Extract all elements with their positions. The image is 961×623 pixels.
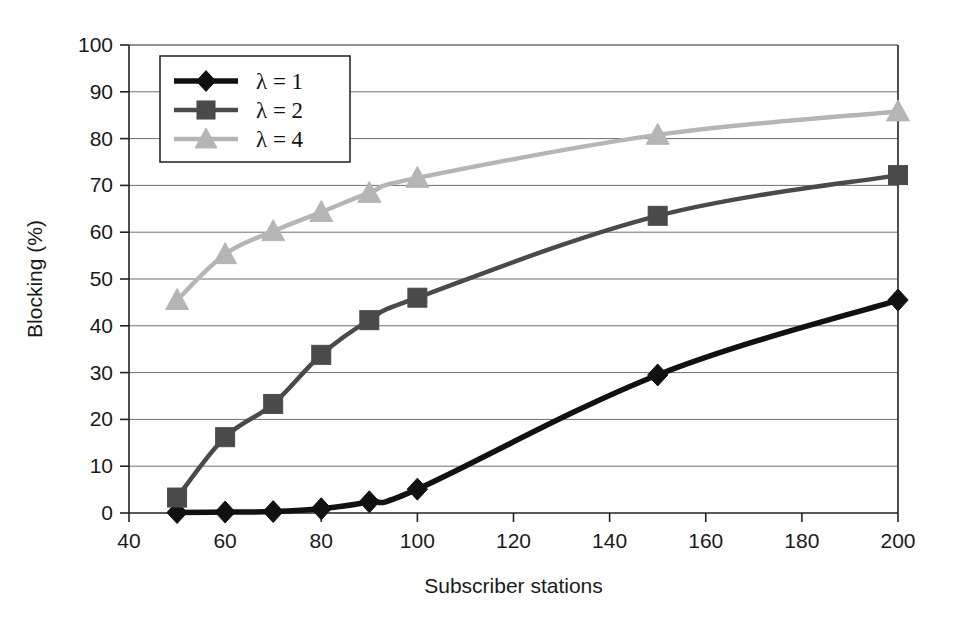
y-axis-title: Blocking (%) [23,220,46,338]
square-marker [168,488,187,507]
legend-label: λ = 2 [256,98,303,123]
y-tick-label-100: 100 [78,33,113,56]
square-marker [648,206,667,225]
x-tick-label-100: 100 [400,529,435,552]
y-tick-label-70: 70 [90,173,113,196]
y-tick-label-80: 80 [90,127,113,150]
x-tick-label-200: 200 [880,529,915,552]
square-marker [360,311,379,330]
chart-figure: 406080100120140160180200 010203040506070… [0,0,961,623]
x-tick-label-40: 40 [117,529,140,552]
y-tick-label-0: 0 [101,501,113,524]
square-marker [216,428,235,447]
x-tick-label-120: 120 [496,529,531,552]
x-tick-label-160: 160 [688,529,723,552]
legend-label: λ = 1 [256,69,303,94]
y-tick-label-60: 60 [90,220,113,243]
x-axis-title: Subscriber stations [424,574,603,597]
chart-legend: λ = 1λ = 2λ = 4 [160,56,350,162]
square-marker [264,394,283,413]
x-tick-label-60: 60 [213,529,236,552]
y-tick-label-40: 40 [90,314,113,337]
blocking-vs-subscriber-stations-line-chart: 406080100120140160180200 010203040506070… [0,0,961,623]
y-tick-label-30: 30 [90,361,113,384]
square-marker [408,288,427,307]
square-marker [889,166,908,185]
legend-label: λ = 4 [256,127,304,152]
y-tick-label-20: 20 [90,407,113,430]
square-marker [312,345,331,364]
y-tick-label-10: 10 [90,454,113,477]
x-tick-label-180: 180 [784,529,819,552]
x-tick-label-140: 140 [592,529,627,552]
square-marker [197,101,215,119]
y-tick-label-50: 50 [90,267,113,290]
x-tick-label-80: 80 [310,529,333,552]
y-tick-label-90: 90 [90,80,113,103]
